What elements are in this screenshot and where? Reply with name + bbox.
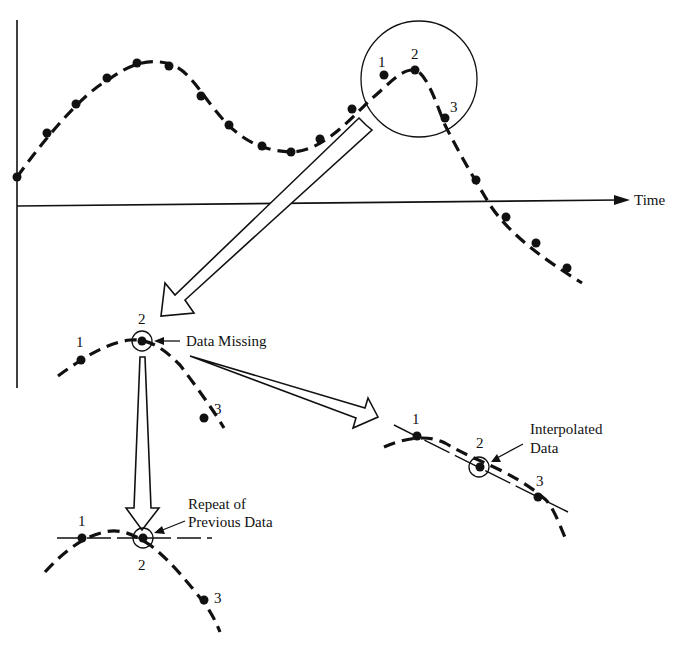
missing-annotation: Data Missing xyxy=(186,333,267,349)
repeat-panel: 1 2 3 Repeat of Previous Data xyxy=(45,496,273,632)
callout-label-1: 1 xyxy=(378,54,386,70)
missing-label-1: 1 xyxy=(76,334,84,350)
repeat-annotation-line1: Repeat of xyxy=(188,496,246,512)
interpolated-annotation-line1: Interpolated xyxy=(530,421,603,437)
repeat-pointer-arrowhead-icon xyxy=(154,526,165,534)
x-axis-arrowhead-icon xyxy=(614,195,630,205)
main-signal xyxy=(13,59,583,284)
sample-points xyxy=(13,59,572,273)
repeat-label-3: 3 xyxy=(214,590,222,606)
repeat-label-2: 2 xyxy=(138,557,146,573)
repeat-curve xyxy=(45,531,220,632)
x-axis xyxy=(17,200,618,206)
interpolated-panel: 1 2 3 Interpolated Data xyxy=(384,411,603,540)
interpolate-arrow-icon xyxy=(190,356,378,428)
repeat-label-1: 1 xyxy=(78,513,86,529)
callout-label-2: 2 xyxy=(411,46,419,62)
magnifier-circle xyxy=(361,21,477,137)
x-axis-label: Time xyxy=(634,192,665,208)
missing-pointer-arrowhead-icon xyxy=(154,337,164,345)
missing-label-3: 3 xyxy=(214,401,222,417)
repeat-pointer-line xyxy=(160,521,185,531)
signal-curve xyxy=(17,62,582,283)
missing-data-diagram: Time 1 2 3 xyxy=(0,0,677,645)
interpolated-label-2: 2 xyxy=(476,435,484,451)
callout-label-3: 3 xyxy=(450,99,458,115)
interpolated-label-1: 1 xyxy=(412,411,420,427)
interpolated-label-3: 3 xyxy=(536,473,544,489)
interpolated-pointer-arrowhead-icon xyxy=(491,454,501,462)
missing-label-2: 2 xyxy=(138,311,146,327)
repeat-annotation-line2: Previous Data xyxy=(188,514,273,530)
repeat-arrow-icon xyxy=(126,357,159,530)
interpolated-annotation-line2: Data xyxy=(530,440,559,456)
interpolated-pointer-line xyxy=(497,444,523,458)
zoom-callout: 1 2 3 xyxy=(361,21,477,137)
